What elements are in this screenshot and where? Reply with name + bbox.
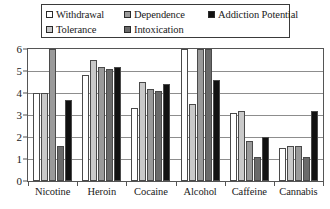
legend-item-tolerance: Tolerance [46, 24, 124, 35]
bar-cocaine-tolerance [139, 82, 146, 181]
x-label-heroin: Heroin [77, 186, 126, 198]
bar-heroin-withdrawal [82, 75, 89, 181]
bar-cannabis-tolerance [287, 146, 294, 181]
chart-legend: Withdrawal Dependence Addiction Potentia… [41, 4, 290, 38]
bar-cocaine-intoxication [155, 91, 162, 181]
bar-nicotine-addiction-potential [65, 100, 72, 181]
legend-label-intoxication: Intoxication [134, 24, 184, 35]
bar-caffeine-dependence [246, 141, 253, 181]
y-tick-label-6: 6 [17, 44, 23, 55]
bar-cannabis-addiction-potential [311, 111, 318, 181]
bar-cocaine-withdrawal [131, 108, 138, 181]
bar-heroin-intoxication [106, 69, 113, 181]
bar-heroin-tolerance [90, 60, 97, 181]
bar-cannabis-dependence [295, 146, 302, 181]
x-label-alcohol: Alcohol [176, 186, 225, 198]
y-tick-label-5: 5 [17, 66, 23, 77]
bar-nicotine-withdrawal [33, 93, 40, 181]
x-label-caffeine: Caffeine [225, 186, 274, 198]
bar-group-cocaine [126, 49, 175, 181]
bar-caffeine-addiction-potential [262, 137, 269, 181]
bar-nicotine-intoxication [57, 146, 64, 181]
y-tick-label-1: 1 [17, 154, 23, 165]
x-tick-mark-3 [176, 182, 177, 186]
x-label-cannabis: Cannabis [274, 186, 323, 198]
bar-group-heroin [77, 49, 126, 181]
y-tick-label-0: 0 [17, 176, 23, 187]
legend-row-1: Withdrawal Dependence Addiction Potentia… [46, 7, 286, 22]
legend-swatch-dependence-icon [124, 11, 131, 18]
bar-alcohol-dependence [197, 49, 204, 181]
bar-caffeine-tolerance [238, 111, 245, 181]
legend-item-withdrawal: Withdrawal [46, 9, 124, 20]
y-tick-label-4: 4 [17, 88, 23, 99]
legend-swatch-intoxication-icon [124, 26, 131, 33]
legend-swatch-tolerance-icon [46, 26, 53, 33]
bar-nicotine-tolerance [41, 93, 48, 181]
bar-group-caffeine [225, 49, 274, 181]
y-axis: 6543210 [0, 48, 27, 182]
x-tick-mark-6 [323, 182, 324, 186]
legend-swatch-withdrawal-icon [46, 11, 53, 18]
legend-row-2: Tolerance Intoxication [46, 22, 286, 37]
bar-heroin-addiction-potential [114, 67, 121, 181]
bar-cocaine-dependence [147, 89, 154, 181]
x-tick-mark-5 [274, 182, 275, 186]
bar-alcohol-tolerance [189, 104, 196, 181]
legend-item-dependence: Dependence [124, 9, 208, 20]
y-tick-label-3: 3 [17, 110, 23, 121]
bar-nicotine-dependence [49, 49, 56, 181]
bar-alcohol-intoxication [205, 49, 212, 181]
x-axis-labels: NicotineHeroinCocaineAlcoholCaffeineCann… [28, 186, 323, 198]
y-tick-label-2: 2 [17, 132, 23, 143]
legend-label-addiction-potential: Addiction Potential [218, 9, 298, 20]
bar-alcohol-addiction-potential [213, 80, 220, 181]
bar-caffeine-withdrawal [230, 113, 237, 181]
bar-caffeine-intoxication [254, 157, 261, 181]
x-tick-mark-2 [126, 182, 127, 186]
bar-heroin-dependence [98, 67, 105, 181]
x-tick-mark-4 [225, 182, 226, 186]
legend-label-withdrawal: Withdrawal [56, 9, 104, 20]
bar-cocaine-addiction-potential [163, 84, 170, 181]
bar-cannabis-withdrawal [279, 148, 286, 181]
x-label-nicotine: Nicotine [28, 186, 77, 198]
bar-group-nicotine [28, 49, 77, 181]
bars-layer [28, 49, 323, 181]
bar-group-alcohol [176, 49, 225, 181]
legend-item-intoxication: Intoxication [124, 24, 208, 35]
legend-swatch-addiction-potential-icon [208, 11, 215, 18]
legend-label-dependence: Dependence [134, 9, 185, 20]
bar-cannabis-intoxication [303, 157, 310, 181]
bar-alcohol-withdrawal [181, 49, 188, 181]
x-label-cocaine: Cocaine [126, 186, 175, 198]
x-tick-mark-1 [77, 182, 78, 186]
x-tick-mark-0 [28, 182, 29, 186]
legend-label-tolerance: Tolerance [56, 24, 96, 35]
bar-group-cannabis [274, 49, 323, 181]
